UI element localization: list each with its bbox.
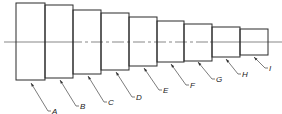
leader-d: D — [116, 72, 142, 102]
leader-b: B — [60, 80, 86, 111]
leader-g: G — [198, 62, 222, 84]
arrowhead-icon — [116, 72, 119, 76]
leader-e: E — [144, 68, 169, 95]
leader-i: I — [254, 57, 272, 73]
arrowhead-icon — [144, 68, 147, 72]
step-label-d: D — [136, 93, 142, 102]
shaft-step-d — [101, 13, 129, 70]
step-label-f: F — [190, 81, 196, 90]
leader-a: A — [31, 83, 57, 114]
leader-h: H — [226, 59, 248, 79]
arrowhead-icon — [31, 83, 34, 87]
shaft-step-f — [157, 21, 184, 62]
leader-c: C — [88, 76, 114, 107]
arrowhead-icon — [171, 64, 174, 68]
step-label-b: B — [80, 102, 86, 111]
shaft-step-g — [184, 24, 212, 61]
stepped-shaft-diagram: ABCDEFGHI — [0, 0, 282, 114]
step-label-c: C — [108, 98, 114, 107]
step-label-i: I — [269, 64, 272, 73]
diagram-canvas: ABCDEFGHI — [0, 0, 282, 114]
shaft-step-a — [16, 3, 45, 80]
step-label-a: A — [51, 107, 57, 114]
step-label-e: E — [163, 86, 169, 95]
step-label-h: H — [242, 70, 248, 79]
shaft-step-b — [45, 5, 73, 78]
leader-f: F — [171, 64, 196, 90]
step-label-g: G — [216, 75, 222, 84]
shaft-step-e — [129, 17, 157, 66]
arrowhead-icon — [60, 80, 63, 84]
arrowhead-icon — [88, 76, 91, 80]
